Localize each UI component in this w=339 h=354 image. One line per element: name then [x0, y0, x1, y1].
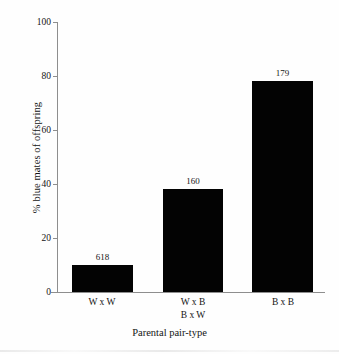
bar-value-label: 179 [276, 68, 290, 78]
x-tick-line: B x B [272, 296, 294, 309]
x-tick-label-w-x-b: W x B B x W [181, 296, 206, 322]
y-tick-label: 80 [42, 71, 52, 81]
bar-w-x-b-b-x-w: 160 [163, 189, 223, 292]
bar-chart-figure: % blue mates of offspring 0 20 40 60 80 … [0, 0, 339, 354]
y-tick-label: 100 [37, 17, 51, 27]
plot-area: 0 20 40 60 80 100 618 160 179 [57, 22, 325, 292]
x-tick-line: B x W [181, 309, 206, 322]
y-tick-label: 20 [42, 233, 52, 243]
x-tick-line: W x B [181, 296, 206, 309]
x-tick-label-w-x-w: W x W [88, 296, 115, 309]
bar-b-x-b: 179 [252, 81, 313, 292]
y-tick-label: 0 [46, 287, 51, 297]
y-axis-title: % blue mates of offspring [31, 58, 42, 258]
y-tick-mark [53, 76, 57, 77]
x-axis-title: Parental pair-type [0, 327, 339, 338]
scan-artifact [0, 350, 339, 352]
bar-value-label: 618 [96, 252, 110, 262]
x-axis-spine [51, 292, 325, 293]
x-tick-line: W x W [88, 296, 115, 309]
x-tick-label-b-x-b: B x B [272, 296, 294, 309]
y-tick-mark [53, 184, 57, 185]
y-tick-mark [53, 130, 57, 131]
y-tick-mark [53, 238, 57, 239]
y-tick-mark [53, 22, 57, 23]
y-axis-spine [57, 22, 58, 293]
y-tick-label: 60 [42, 125, 52, 135]
y-tick-mark [53, 292, 57, 293]
bar-value-label: 160 [186, 176, 200, 186]
bar-w-x-w: 618 [72, 265, 133, 292]
y-tick-label: 40 [42, 179, 52, 189]
